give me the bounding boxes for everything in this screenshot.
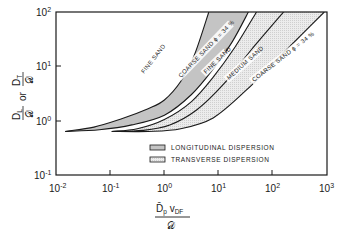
y-tick-labels: 102 101 100 10-1: [34, 6, 51, 181]
label-fine-sand-long: FINE SAND: [140, 43, 167, 75]
bands: [65, 12, 324, 132]
x-tick-labels: 10-2 10-1 100 101 102 103: [49, 182, 334, 194]
x-axis-label: D̄p vDF 𝒟: [155, 202, 190, 231]
x-label-numerator: D̄p vDF: [156, 202, 183, 216]
legend: LONGITUDINAL DISPERSION TRANSVERSE DISPE…: [150, 144, 275, 163]
x-tick-3: 101: [211, 182, 226, 194]
x-tick-2: 100: [157, 182, 172, 194]
y-label-dt: DT: [11, 75, 23, 86]
y-label-dl: DL: [11, 109, 23, 120]
dispersion-chart: FINE SAND COARSE SAND ϕ = 34 % FINE SAND…: [0, 0, 341, 236]
svg-text:𝒟: 𝒟: [24, 110, 35, 118]
legend-swatch-longitudinal: [150, 145, 165, 150]
svg-text:𝒟: 𝒟: [24, 76, 35, 84]
x-tick-4: 102: [265, 182, 280, 194]
legend-swatch-transverse: [150, 157, 165, 162]
y-tick-3: 102: [36, 6, 51, 18]
y-label-or: or: [17, 91, 28, 101]
x-label-denominator: 𝒟: [167, 220, 175, 231]
legend-label-longitudinal: LONGITUDINAL DISPERSION: [171, 144, 275, 151]
y-tick-1: 100: [36, 115, 51, 127]
x-ticks: [110, 170, 272, 175]
y-tick-2: 101: [36, 60, 51, 72]
y-axis-label: DL 𝒟 or DT 𝒟: [11, 72, 35, 120]
y-ticks: [56, 66, 61, 121]
x-tick-5: 103: [319, 182, 334, 194]
x-tick-1: 10-1: [102, 182, 119, 194]
x-tick-0: 10-2: [49, 182, 66, 194]
y-tick-0: 10-1: [34, 169, 51, 181]
legend-label-transverse: TRANSVERSE DISPERSION: [171, 156, 270, 163]
